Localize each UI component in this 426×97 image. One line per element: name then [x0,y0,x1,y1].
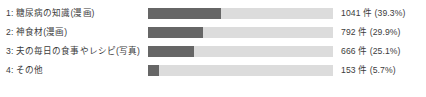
chart-row: 2: 神食材(漫画) 792 件 (29.9%) [0,23,426,42]
chart-bar-track [148,8,333,19]
chart-row: 1: 糖尿病の知識(漫画) 1041 件 (39.3%) [0,4,426,23]
chart-row-value: 153 件 (5.7%) [341,61,426,80]
horizontal-bar-chart: 1: 糖尿病の知識(漫画) 1041 件 (39.3%) 2: 神食材(漫画) … [0,0,426,97]
chart-bar-track [148,27,333,38]
chart-bar-fill [148,65,159,76]
chart-row-value: 666 件 (25.1%) [341,42,426,61]
chart-row: 4: その他 153 件 (5.7%) [0,61,426,80]
chart-row-label: 3: 夫の毎日の食事やレシピ(写真) [6,42,140,61]
chart-bar-fill [148,27,203,38]
chart-row: 3: 夫の毎日の食事やレシピ(写真) 666 件 (25.1%) [0,42,426,61]
chart-bar-track [148,46,333,57]
chart-row-label: 2: 神食材(漫画) [6,23,67,42]
chart-bar-fill [148,8,221,19]
chart-row-value: 792 件 (29.9%) [341,23,426,42]
chart-row-label: 1: 糖尿病の知識(漫画) [6,4,95,23]
chart-bar-fill [148,46,194,57]
chart-row-label: 4: その他 [6,61,43,80]
chart-row-value: 1041 件 (39.3%) [341,4,426,23]
chart-bar-track [148,65,333,76]
